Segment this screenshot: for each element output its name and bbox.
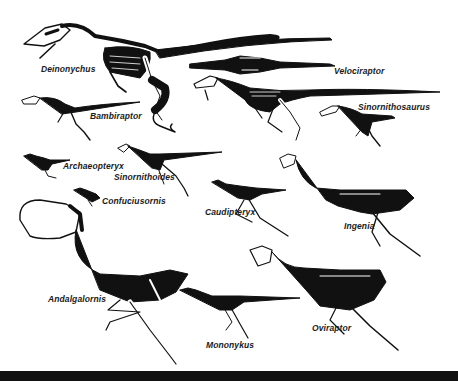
label-mononykus: Mononykus bbox=[206, 340, 254, 350]
label-velociraptor: Velociraptor bbox=[334, 66, 384, 76]
label-andalgalornis: Andalgalornis bbox=[48, 294, 106, 304]
label-ingenia: Ingenia bbox=[344, 221, 374, 231]
label-archaeopteryx: Archaeopteryx bbox=[63, 161, 124, 171]
label-oviraptor: Oviraptor bbox=[312, 323, 351, 333]
ingenia-skeleton bbox=[280, 154, 420, 256]
sinornithoides-skeleton bbox=[118, 144, 222, 196]
skeletons-artwork bbox=[0, 0, 458, 387]
deinonychus-skeleton bbox=[24, 24, 332, 132]
label-sinornithosaurus: Sinornithosaurus bbox=[358, 102, 430, 112]
label-caudipteryx: Caudipteryx bbox=[205, 207, 255, 217]
mononykus-skeleton bbox=[180, 288, 300, 338]
skeleton-comparison-figure: Deinonychus Velociraptor Bambiraptor Sin… bbox=[0, 0, 458, 387]
label-bambiraptor: Bambiraptor bbox=[90, 111, 142, 121]
label-deinonychus: Deinonychus bbox=[41, 64, 95, 74]
label-sinornithoides: Sinornithoides bbox=[114, 172, 175, 182]
bottom-bar bbox=[0, 371, 458, 381]
confuciusornis-skeleton bbox=[74, 188, 100, 206]
andalgalornis-skeleton bbox=[20, 200, 188, 364]
velociraptor-topview bbox=[190, 56, 335, 74]
sinornithosaurus-skeleton bbox=[320, 106, 395, 146]
label-confuciusornis: Confuciusornis bbox=[102, 196, 166, 206]
